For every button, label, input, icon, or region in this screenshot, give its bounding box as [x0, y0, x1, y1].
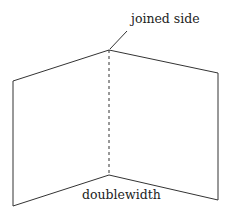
left-panel-outline — [13, 50, 109, 206]
doublewidth-label: doublewidth — [82, 187, 161, 202]
joined-side-leader-line — [110, 31, 127, 49]
right-panel-outline — [109, 50, 218, 200]
joined-side-label: joined side — [129, 11, 200, 26]
doublewidth-panel-diagram: joined side doublewidth — [0, 0, 231, 221]
